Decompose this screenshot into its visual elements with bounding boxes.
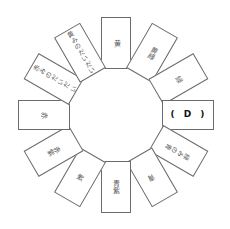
segment-label: 緑: [174, 74, 184, 84]
segment-blank-d: ( D ): [162, 100, 214, 130]
segment-red: 赤: [18, 100, 70, 130]
segment-label: 赤: [41, 112, 48, 119]
color-wheel-diagram: 黄 黄緑 緑 ( D ) 緑みの青 青 青紫 紫 赤紫 赤 赤みのだいだい 黄み…: [0, 0, 230, 229]
segment-label: 黄緑: [145, 45, 158, 61]
segment-label: 青紫: [113, 180, 120, 194]
segment-label: 緑みの青: [165, 141, 192, 161]
segment-label: 紫: [75, 173, 85, 183]
segment-label: 赤紫: [46, 144, 62, 157]
segment-yellow: 黄: [101, 17, 131, 69]
segment-label-answer-d: ( D ): [171, 111, 205, 120]
segment-label: 黄: [113, 40, 120, 47]
segment-label: 黄みのだいだい: [65, 30, 95, 76]
segment-label: 赤みのだいだい: [31, 64, 77, 94]
segment-label: 青: [147, 173, 157, 183]
segment-blue-purple: 青紫: [101, 161, 131, 213]
